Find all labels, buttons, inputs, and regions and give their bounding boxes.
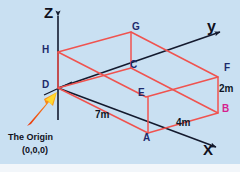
x-axis-label: X <box>203 142 213 158</box>
vertex-label-G: G <box>132 22 140 33</box>
dimension-label-depth: 7m <box>95 110 109 121</box>
y-axis-label: y <box>207 19 216 36</box>
z-axis-label: Z <box>44 5 53 21</box>
vertex-label-E: E <box>138 88 145 99</box>
dimension-label-height: 2m <box>219 84 233 95</box>
vertex-label-A: A <box>143 133 150 144</box>
origin-caption-title: The Origin <box>8 133 53 142</box>
vertex-label-D: D <box>42 80 49 91</box>
vertex-label-H: H <box>42 45 49 56</box>
origin-caption-coords: (0,0,0) <box>22 146 48 155</box>
vertex-label-C: C <box>130 60 137 71</box>
vertex-label-B: B <box>222 104 229 115</box>
vertex-label-F: F <box>224 63 230 74</box>
diagram-canvas: Z y X G H C F D E B A 7m 4m 2m The Origi… <box>0 0 240 172</box>
dimension-label-width: 4m <box>176 118 190 129</box>
